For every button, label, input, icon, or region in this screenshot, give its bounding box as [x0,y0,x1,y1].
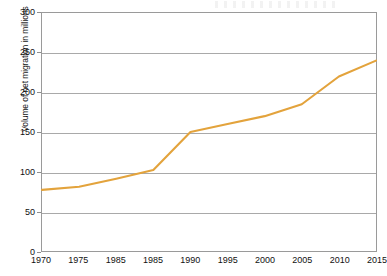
y-tick-label-50: 50 [25,207,35,217]
x-axis-tick-labels: 1970197519851985199019952000200520102015 [41,255,377,273]
y-tick-label-250: 250 [20,47,35,57]
y-axis-tick-labels: 050100150200250300 [0,0,41,276]
y-tick-label-100: 100 [20,167,35,177]
x-tick-label-5: 1995 [218,255,238,265]
plot-area [41,12,377,252]
y-tick-label-200: 200 [20,87,35,97]
x-tick-label-8: 2010 [330,255,350,265]
scan-noise-artifact [215,1,335,8]
series-layer [42,13,376,251]
y-tick-mark-0 [37,252,41,253]
migration-line-series [42,61,376,190]
x-tick-label-9: 2015 [367,255,387,265]
x-tick-label-0: 1970 [31,255,51,265]
x-tick-label-1: 1975 [68,255,88,265]
x-tick-label-6: 2000 [255,255,275,265]
x-tick-label-4: 1990 [180,255,200,265]
x-tick-label-3: 1985 [143,255,163,265]
x-tick-label-2: 1985 [106,255,126,265]
y-tick-label-300: 300 [20,7,35,17]
x-tick-label-7: 2005 [292,255,312,265]
y-tick-label-150: 150 [20,127,35,137]
